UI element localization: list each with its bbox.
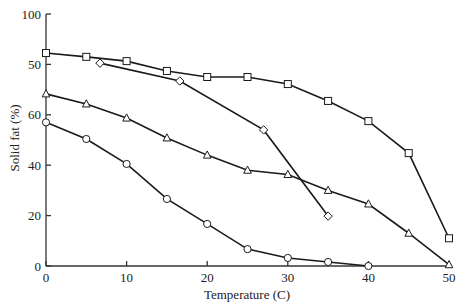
- y-tick-label: 0: [35, 259, 42, 274]
- square-marker: [284, 81, 291, 88]
- circle-marker: [204, 220, 211, 227]
- triangle-marker: [42, 90, 50, 97]
- x-tick-label: 20: [201, 270, 214, 285]
- circle-marker: [244, 246, 251, 253]
- y-tick-label: 100: [22, 7, 42, 22]
- square-marker: [325, 97, 332, 104]
- x-tick-label: 50: [443, 270, 456, 285]
- series-triangle: [42, 90, 453, 268]
- square-marker: [446, 235, 453, 242]
- series-group: [42, 50, 453, 270]
- diamond-marker: [176, 77, 184, 85]
- y-tick-label: 60: [28, 107, 41, 122]
- circle-marker: [123, 160, 130, 167]
- circle-marker: [163, 195, 170, 202]
- x-axis-title: Temperature (C): [204, 287, 290, 302]
- solid-fat-line-chart: 02040605010001020304050 Temperature (C) …: [0, 0, 465, 306]
- y-axis-title: Solid fat (%): [7, 104, 22, 171]
- square-marker: [43, 50, 50, 57]
- square-marker: [405, 150, 412, 157]
- series-circle: [42, 119, 372, 270]
- circle-marker: [42, 119, 49, 126]
- circle-marker: [83, 135, 90, 142]
- x-tick-label: 40: [362, 270, 375, 285]
- x-tick-label: 30: [281, 270, 294, 285]
- circle-marker: [365, 262, 372, 269]
- y-tick-label: 40: [28, 158, 41, 173]
- series-diamond: [96, 59, 332, 220]
- series-line: [46, 122, 368, 266]
- circle-marker: [325, 258, 332, 265]
- triangle-marker: [405, 229, 413, 236]
- x-tick-label: 10: [120, 270, 133, 285]
- y-tick-label: 50: [28, 57, 41, 72]
- square-marker: [123, 58, 130, 65]
- square-marker: [163, 67, 170, 74]
- x-tick-label: 0: [43, 270, 50, 285]
- circle-marker: [284, 254, 291, 261]
- square-marker: [204, 74, 211, 81]
- square-marker: [83, 53, 90, 60]
- square-marker: [244, 74, 251, 81]
- triangle-marker: [445, 261, 453, 268]
- series-line: [46, 94, 449, 265]
- diamond-marker: [96, 59, 104, 67]
- series-square: [43, 50, 453, 242]
- square-marker: [365, 118, 372, 125]
- y-tick-label: 20: [28, 208, 41, 223]
